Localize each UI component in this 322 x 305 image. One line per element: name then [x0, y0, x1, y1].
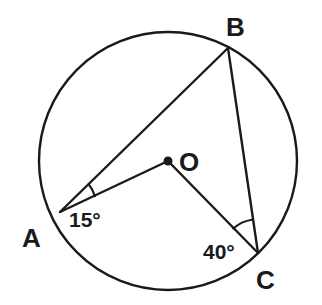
point-label-b: B — [226, 12, 245, 42]
segment-ab — [60, 48, 228, 212]
angle-label-c: 40° — [203, 240, 235, 263]
angle-label-a: 15° — [69, 208, 101, 231]
point-label-o: O — [179, 147, 199, 177]
point-label-c: C — [256, 265, 275, 295]
geometry-figure-circle-with-inscribed-angles: A B C O 15° 40° — [0, 0, 322, 305]
segment-ao — [60, 161, 168, 212]
angle-arc-a — [89, 184, 95, 196]
point-label-a: A — [22, 223, 41, 253]
center-point-dot — [164, 157, 173, 166]
angle-arc-c — [233, 220, 252, 229]
